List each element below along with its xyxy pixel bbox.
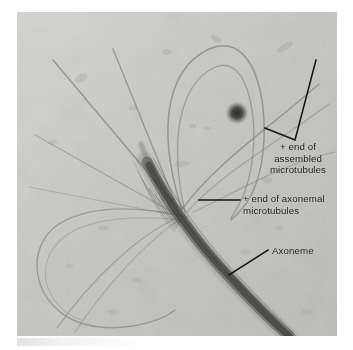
label-plus-end-assembled-microtubules: + end of assembled microtubules <box>246 141 350 176</box>
plate-footer-smudge <box>17 338 137 346</box>
label-plus-end-axonemal-microtubules: + end of axonemal microtubules <box>243 193 353 216</box>
dark-particle <box>225 101 249 125</box>
figure-root: + end of assembled microtubules + end of… <box>0 0 353 350</box>
label-axoneme: Axoneme <box>272 245 342 257</box>
